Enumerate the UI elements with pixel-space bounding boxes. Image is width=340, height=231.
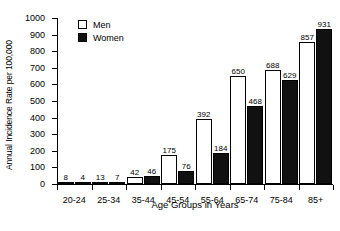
x-axis-tick — [299, 185, 300, 190]
y-axis-tick: 1000 — [52, 18, 57, 19]
x-axis-tick — [230, 185, 231, 190]
y-axis-tick-label: 600 — [30, 80, 45, 89]
y-axis-tick: 200 — [52, 151, 57, 152]
y-axis-line — [57, 18, 58, 185]
y-axis-tick: 600 — [52, 84, 57, 85]
x-axis-tick — [92, 185, 93, 190]
legend-label-women: Women — [93, 32, 124, 44]
bar-value-label: 857 — [301, 33, 314, 42]
bar-men-35-44: 42 — [127, 177, 143, 184]
bar-men-20-24: 8 — [58, 182, 74, 184]
bar-value-label: 42 — [130, 168, 139, 177]
y-axis-tick: 100 — [52, 167, 57, 168]
bar-women-75-84: 629 — [282, 80, 298, 184]
y-axis-tick: 400 — [52, 118, 57, 119]
y-axis-tick: 900 — [52, 35, 57, 36]
y-axis-tick-label: 100 — [30, 163, 45, 172]
bar-value-label: 184 — [214, 144, 227, 153]
bar-value-label: 175 — [163, 146, 176, 155]
legend-item-women: Women — [78, 31, 124, 44]
bar-value-label: 629 — [283, 71, 296, 80]
bar-value-label: 688 — [266, 61, 279, 70]
legend-swatch-women-icon — [78, 33, 87, 42]
bar-value-label: 46 — [147, 167, 156, 176]
bar-women-25-34: 7 — [109, 182, 125, 184]
legend-label-men: Men — [93, 19, 111, 31]
bar-value-label: 650 — [232, 67, 245, 76]
bar-value-label: 4 — [81, 173, 85, 182]
bar-value-label: 392 — [197, 110, 210, 119]
x-axis-tick — [126, 185, 127, 190]
bar-men-55-64: 392 — [196, 119, 212, 184]
y-axis-tick-label: 0 — [40, 180, 45, 189]
x-axis-tick — [264, 185, 265, 190]
bar-men-65-74: 650 — [230, 76, 246, 184]
y-axis-tick-label: 500 — [30, 97, 45, 106]
x-axis-tick — [57, 185, 58, 190]
bar-value-label: 468 — [249, 97, 262, 106]
y-axis-tick: 800 — [52, 51, 57, 52]
bar-value-label: 7 — [115, 173, 119, 182]
bar-value-label: 931 — [318, 20, 331, 29]
y-axis-tick-label: 900 — [30, 30, 45, 39]
legend-item-men: Men — [78, 18, 124, 31]
x-axis-title: Age Groups in Years — [57, 199, 333, 211]
bar-women-45-54: 76 — [178, 171, 194, 184]
y-axis-tick-label: 800 — [30, 47, 45, 56]
legend-swatch-men-icon — [78, 20, 87, 29]
chart-legend: Men Women — [78, 18, 124, 44]
y-axis-tick: 700 — [52, 68, 57, 69]
y-axis-tick-label: 200 — [30, 146, 45, 155]
bar-women-55-64: 184 — [213, 153, 229, 184]
bar-men-75-84: 688 — [265, 70, 281, 184]
y-axis-tick: 300 — [52, 134, 57, 135]
bar-women-35-44: 46 — [144, 176, 160, 184]
y-axis-tick: 500 — [52, 101, 57, 102]
bar-women-85+: 931 — [316, 29, 332, 184]
bar-value-label: 76 — [182, 162, 191, 171]
y-axis-tick-label: 400 — [30, 113, 45, 122]
bar-value-label: 8 — [64, 173, 68, 182]
x-axis-tick — [333, 185, 334, 190]
bar-men-85+: 857 — [299, 42, 315, 184]
x-axis-tick — [161, 185, 162, 190]
y-axis-tick-label: 1000 — [25, 14, 45, 23]
y-axis-title: Annual Incidence Rate per 100,000 — [2, 10, 16, 200]
bar-men-45-54: 175 — [161, 155, 177, 184]
x-axis-tick — [195, 185, 196, 190]
bar-men-25-34: 13 — [92, 182, 108, 184]
y-axis-tick-label: 300 — [30, 130, 45, 139]
bar-women-20-24: 4 — [75, 182, 91, 184]
y-axis-tick-label: 700 — [30, 63, 45, 72]
bar-value-label: 13 — [96, 173, 105, 182]
grouped-bar-chart: Annual Incidence Rate per 100,000 010020… — [0, 0, 340, 231]
bar-women-65-74: 468 — [247, 106, 263, 184]
